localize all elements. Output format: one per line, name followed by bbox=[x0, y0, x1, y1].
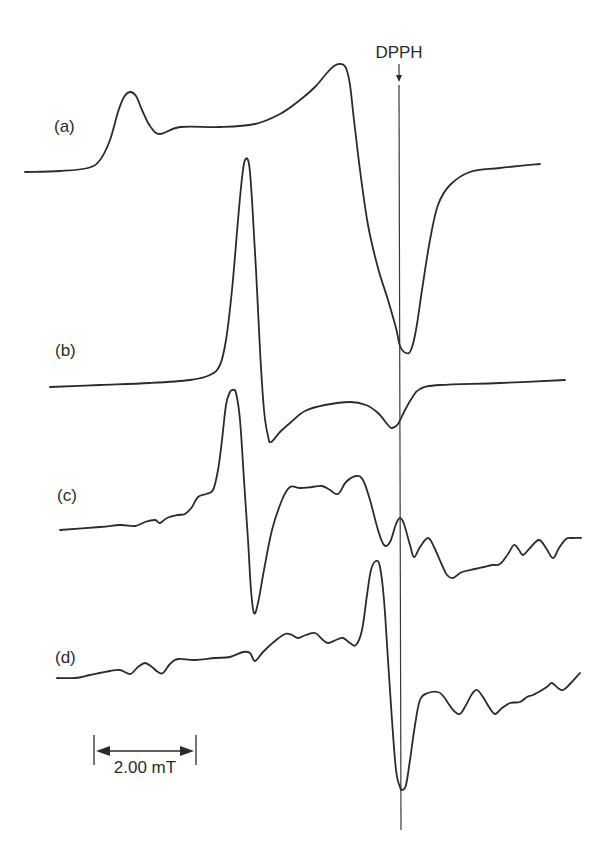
trace-label-b: (b) bbox=[55, 341, 76, 360]
spectrum-traces bbox=[25, 64, 581, 790]
spectrum-trace-d bbox=[57, 561, 580, 790]
trace-labels: (a) (b) (c) (d) bbox=[54, 117, 77, 667]
dpph-reference-line bbox=[399, 85, 401, 830]
arrow-right-icon bbox=[180, 746, 194, 756]
trace-label-c: (c) bbox=[57, 486, 77, 505]
scale-bar: 2.00 mT bbox=[94, 735, 196, 777]
scale-bar-label: 2.00 mT bbox=[114, 758, 176, 777]
epr-spectra-figure: DPPH (a) (b) (c) (d) 2.00 mT bbox=[0, 0, 613, 868]
arrow-left-icon bbox=[96, 746, 110, 756]
arrow-down-icon bbox=[396, 75, 402, 82]
trace-label-d: (d) bbox=[55, 648, 76, 667]
spectrum-trace-c bbox=[60, 390, 581, 614]
trace-label-a: (a) bbox=[54, 117, 75, 136]
spectra-plot: DPPH (a) (b) (c) (d) 2.00 mT bbox=[0, 0, 613, 868]
spectrum-trace-a bbox=[25, 64, 540, 354]
spectrum-trace-b bbox=[50, 158, 565, 442]
dpph-marker: DPPH bbox=[375, 43, 422, 830]
dpph-label: DPPH bbox=[375, 43, 422, 62]
